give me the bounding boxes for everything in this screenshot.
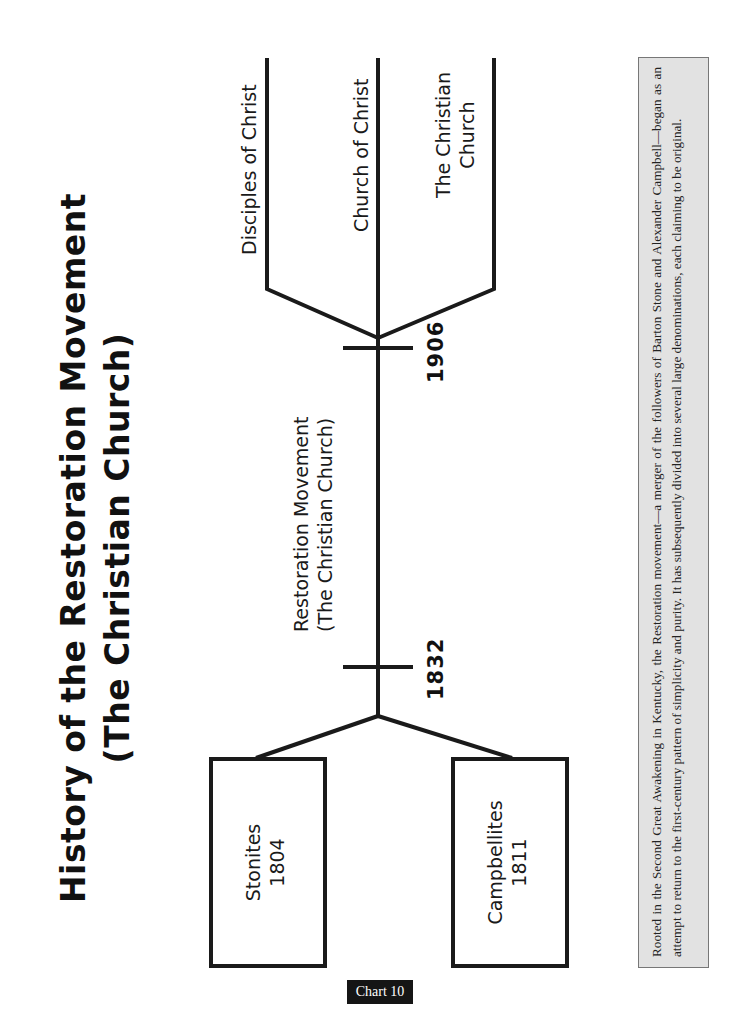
disciples-line-1: Disciples of Christ <box>237 55 261 255</box>
stonites-year: 1804 <box>265 759 289 966</box>
church-of-christ-label: Church of Christ <box>349 32 373 232</box>
church-of-christ-line-1: Church of Christ <box>349 32 373 232</box>
disciples-of-christ-label: Disciples of Christ <box>237 55 261 255</box>
description-text: Rooted in the Second Great Awakening in … <box>647 67 686 957</box>
title-line-1: History of the Restoration Movement <box>52 128 96 968</box>
campbellites-name: Campbellites <box>483 759 507 966</box>
christian-church-line-2: Church <box>455 60 479 210</box>
campbellites-label: Campbellites 1811 <box>483 759 531 966</box>
restoration-line-1: Restoration Movement <box>289 382 313 632</box>
stonites-connector <box>256 716 378 758</box>
chart-number-tag: Chart 10 <box>347 980 413 1004</box>
stonites-name: Stonites <box>241 759 265 966</box>
christian-church-line-1: The Christian <box>431 60 455 210</box>
stonites-label: Stonites 1804 <box>241 759 289 966</box>
christian-church-label: The Christian Church <box>431 60 479 210</box>
restoration-line-2: (The Christian Church) <box>313 382 337 632</box>
restoration-movement-label: Restoration Movement (The Christian Chur… <box>289 382 337 632</box>
page-title: History of the Restoration Movement (The… <box>52 128 140 968</box>
campbellites-connector <box>378 716 512 758</box>
campbellites-year: 1811 <box>507 759 531 966</box>
year-1906: 1906 <box>424 321 448 383</box>
title-line-2: (The Christian Church) <box>96 128 140 968</box>
year-1832: 1832 <box>424 638 448 700</box>
